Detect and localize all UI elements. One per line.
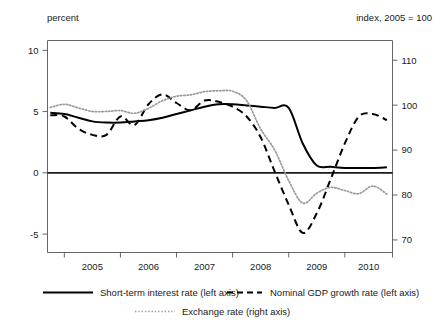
left-axis-ticks: 1050-5 (28, 45, 48, 240)
economic-indicators-line-chart: percent index, 2005 = 100 1050-5 1101009… (0, 0, 446, 331)
series-line-3 (50, 90, 387, 203)
right-tick-label: 90 (402, 144, 413, 155)
series-line-2 (50, 94, 387, 233)
right-tick-label: 70 (402, 234, 413, 245)
chart-legend: Short-term interest rate (left axis)Nomi… (43, 287, 419, 317)
x-axis-ticks: 200520062007200820092010 (64, 253, 392, 272)
left-tick-label: 10 (28, 45, 39, 56)
series-line-1 (50, 104, 387, 168)
x-tick-label: 2010 (358, 261, 379, 272)
x-tick-label: 2007 (194, 261, 215, 272)
legend-label-2: Nominal GDP growth rate (left axis) (270, 287, 419, 298)
legend-label-3: Exchange rate (right axis) (182, 306, 290, 317)
legend-label-1: Short-term interest rate (left axis) (100, 287, 239, 298)
left-tick-label: 5 (33, 106, 38, 117)
chart-container: percent index, 2005 = 100 1050-5 1101009… (0, 0, 446, 331)
plot-frame (48, 41, 393, 253)
left-axis-unit-label: percent (47, 12, 79, 23)
data-series-group (50, 90, 387, 233)
x-tick-label: 2008 (250, 261, 271, 272)
x-tick-label: 2006 (138, 261, 159, 272)
right-tick-label: 80 (402, 189, 413, 200)
x-tick-label: 2005 (82, 261, 103, 272)
right-axis-unit-label: index, 2005 = 100 (356, 12, 432, 23)
right-axis-ticks: 110100908070 (393, 55, 418, 246)
x-tick-label: 2009 (306, 261, 327, 272)
left-tick-label: 0 (33, 167, 38, 178)
right-tick-label: 110 (402, 55, 417, 66)
right-tick-label: 100 (402, 100, 418, 111)
left-tick-label: -5 (30, 229, 38, 240)
plot-border (48, 41, 393, 253)
